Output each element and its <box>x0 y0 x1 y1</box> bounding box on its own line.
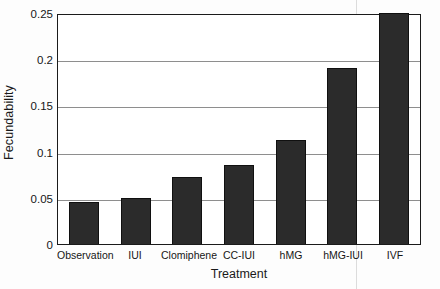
y-tick-label: 0.2 <box>3 54 53 66</box>
bar-iui <box>121 198 151 244</box>
x-axis-tick-labels: ObservationIUIClomipheneCC-IUIhMGhMG-IUI… <box>57 249 421 265</box>
bar-ivf <box>379 13 409 244</box>
bar-chart: Fecundability 00.050.10.150.20.25 Observ… <box>0 0 440 289</box>
y-tick-label: 0.05 <box>3 193 53 205</box>
x-tick-label: Observation <box>57 249 109 261</box>
x-tick-label: Clomiphene <box>161 249 213 261</box>
bar-hmg-iui <box>327 68 357 244</box>
plot-area <box>57 14 421 245</box>
x-tick-label: IVF <box>369 249 421 261</box>
x-tick-label: CC-IUI <box>213 249 265 261</box>
x-tick-label: hMG-IUI <box>317 249 369 261</box>
bar-hmg <box>276 140 306 244</box>
y-tick-label: 0.15 <box>3 100 53 112</box>
x-tick-label: IUI <box>109 249 161 261</box>
x-tick-label: hMG <box>265 249 317 261</box>
bar-observation <box>69 202 99 244</box>
bar-series <box>58 15 420 244</box>
y-tick-label: 0 <box>3 239 53 251</box>
bar-cc-iui <box>224 165 254 244</box>
bar-clomiphene <box>172 177 202 244</box>
y-tick-label: 0.25 <box>3 8 53 20</box>
y-axis-tick-labels: 00.050.10.150.20.25 <box>0 14 53 245</box>
x-axis-title: Treatment <box>57 267 421 281</box>
y-tick-label: 0.1 <box>3 147 53 159</box>
